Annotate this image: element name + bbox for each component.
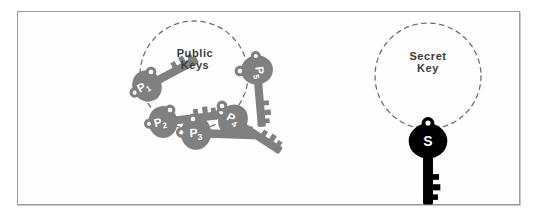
key-s-tooth-1 xyxy=(432,174,439,180)
key-s-tooth-2 xyxy=(432,184,440,190)
key-p5-ring-hole xyxy=(238,69,243,74)
key-s-shaft xyxy=(423,154,433,202)
key-s-label-text: S xyxy=(423,133,432,149)
key-s-tooth-3 xyxy=(432,194,438,200)
secret-key-caption: Secret Key xyxy=(388,50,468,75)
public-keys-caption: Public Keys xyxy=(155,47,235,72)
key-s-tip xyxy=(423,198,433,204)
key-p3-ring-hole xyxy=(191,117,196,122)
key-p2-ring-hole xyxy=(168,108,173,113)
key-p4-ring-hole xyxy=(220,104,225,109)
key-s-hole xyxy=(425,120,430,125)
key-p1-ring-hole xyxy=(149,70,154,75)
figure-root: P1 P2 P3 xyxy=(0,0,541,221)
diagram-canvas: P1 P2 P3 xyxy=(0,0,541,221)
key-s xyxy=(409,117,448,204)
secret-key-circle xyxy=(375,23,481,129)
public-keys-group: P1 P2 P3 xyxy=(123,21,290,164)
